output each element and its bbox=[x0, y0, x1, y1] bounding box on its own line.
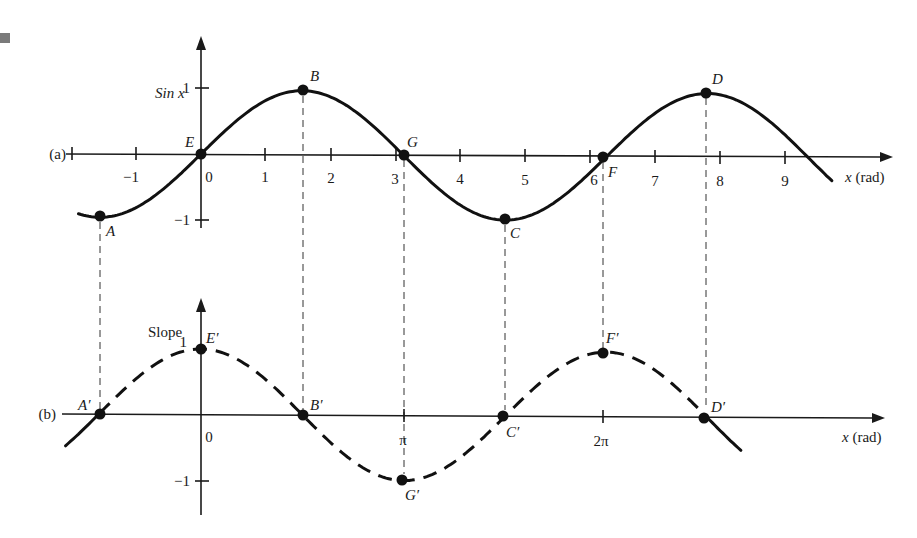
b-y-tick-neg1: −1 bbox=[174, 473, 190, 489]
point-B bbox=[298, 85, 309, 96]
sine-and-slope-figure: (a) Sin x 1 −1 −1 0 1 2 3 4 5 6 7 8 9 x … bbox=[0, 0, 917, 538]
panel-b: (b) Slope 1 −1 0 π 2π x (rad) A′ E′ B′ G… bbox=[39, 298, 886, 515]
a-y-axis-arrow-icon bbox=[196, 36, 206, 50]
svg-text:2: 2 bbox=[327, 170, 335, 186]
panel-a: (a) Sin x 1 −1 −1 0 1 2 3 4 5 6 7 8 9 x … bbox=[49, 36, 893, 241]
svg-text:6: 6 bbox=[590, 172, 598, 188]
svg-text:0: 0 bbox=[205, 429, 213, 445]
point-G-prime bbox=[397, 475, 408, 486]
point-F bbox=[598, 152, 609, 163]
svg-text:E′: E′ bbox=[205, 330, 219, 346]
a-x-tick-labels: −1 0 1 2 3 4 5 6 7 8 9 bbox=[123, 169, 789, 189]
svg-text:−1: −1 bbox=[123, 169, 139, 185]
point-F-prime bbox=[598, 348, 609, 359]
b-x-axis bbox=[62, 414, 872, 418]
svg-text:D′: D′ bbox=[710, 399, 726, 415]
a-x-axis-label: x (rad) bbox=[844, 169, 885, 186]
point-C bbox=[500, 214, 511, 225]
b-x-axis-arrow-icon bbox=[872, 413, 885, 423]
point-B-prime bbox=[298, 410, 309, 421]
a-y-axis-label: Sin x bbox=[155, 85, 185, 101]
point-C-prime bbox=[498, 411, 509, 422]
svg-text:F′: F′ bbox=[605, 330, 619, 346]
point-G bbox=[399, 150, 410, 161]
svg-text:C′: C′ bbox=[506, 424, 520, 440]
a-x-axis-arrow-icon bbox=[880, 152, 893, 162]
point-D bbox=[701, 88, 712, 99]
svg-text:0: 0 bbox=[205, 169, 213, 185]
point-A-prime bbox=[95, 409, 106, 420]
svg-text:5: 5 bbox=[521, 172, 529, 188]
svg-text:4: 4 bbox=[456, 171, 464, 187]
svg-text:B: B bbox=[310, 68, 319, 84]
svg-text:A: A bbox=[105, 223, 116, 239]
panel-a-label: (a) bbox=[49, 146, 66, 163]
b-x-tick-labels: 0 π 2π bbox=[205, 429, 609, 449]
svg-text:G: G bbox=[407, 134, 418, 150]
svg-text:1: 1 bbox=[261, 169, 269, 185]
svg-text:8: 8 bbox=[716, 173, 724, 189]
slope-curve-solid-left bbox=[66, 414, 100, 446]
svg-text:9: 9 bbox=[781, 173, 789, 189]
a-y-tick-neg1: −1 bbox=[174, 212, 190, 228]
svg-text:C: C bbox=[510, 225, 521, 241]
svg-text:B′: B′ bbox=[310, 397, 323, 413]
svg-text:G′: G′ bbox=[405, 487, 420, 503]
svg-text:D: D bbox=[711, 71, 723, 87]
panel-b-label: (b) bbox=[39, 406, 57, 423]
b-y-axis-arrow-icon bbox=[196, 298, 206, 312]
point-D-prime bbox=[699, 413, 710, 424]
slope-curve-solid-right bbox=[707, 418, 741, 451]
svg-text:F: F bbox=[607, 164, 618, 180]
point-E bbox=[196, 149, 207, 160]
svg-text:E: E bbox=[184, 134, 194, 150]
a-y-tick-1: 1 bbox=[183, 80, 191, 96]
b-y-tick-1: 1 bbox=[180, 334, 188, 350]
b-x-axis-label: x (rad) bbox=[841, 429, 882, 446]
svg-text:3: 3 bbox=[391, 171, 399, 187]
svg-text:2π: 2π bbox=[593, 433, 609, 449]
point-E-prime bbox=[196, 344, 207, 355]
svg-text:7: 7 bbox=[651, 173, 659, 189]
svg-text:A′: A′ bbox=[77, 397, 91, 413]
svg-text:π: π bbox=[399, 432, 407, 448]
a-x-axis bbox=[66, 154, 880, 157]
point-A bbox=[95, 211, 106, 222]
b-y-axis-label: Slope bbox=[148, 324, 183, 340]
